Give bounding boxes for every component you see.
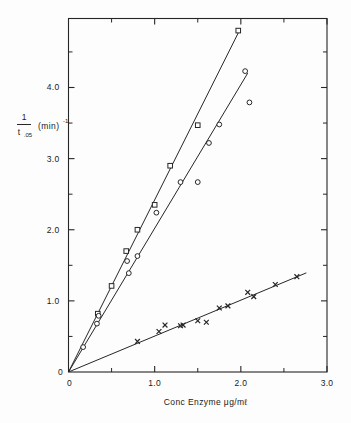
- series-circles-point: [247, 100, 252, 105]
- series-squares-point: [168, 163, 173, 168]
- series-circles-point: [135, 254, 140, 259]
- series-circles: [69, 69, 252, 372]
- plot-frame: [69, 19, 328, 373]
- series-squares-point: [195, 123, 200, 128]
- series-circles-point: [195, 180, 200, 185]
- series-circles-point: [178, 180, 183, 185]
- x-axis-title: Conc Enzyme μg/mℓ: [164, 397, 248, 407]
- series-crosses-point: [204, 320, 209, 325]
- series-squares-point: [109, 284, 114, 289]
- enzyme-kinetics-plot: 1.02.03.0001.02.03.04.0Conc Enzyme μg/mℓ…: [0, 0, 351, 423]
- series-circles-point: [81, 345, 86, 350]
- series-crosses-point: [245, 290, 250, 295]
- series-circles-point: [95, 321, 100, 326]
- y-axis-numerator: 1: [22, 112, 27, 122]
- y-tick-label: 2.0: [47, 225, 60, 235]
- series-circles-fit-line: [69, 73, 248, 372]
- series-circles-point: [126, 271, 131, 276]
- y-axis-units: (min): [38, 121, 59, 131]
- series-circles-point: [96, 313, 101, 318]
- axis-ticks: [69, 19, 328, 373]
- y-tick-label: 3.0: [47, 154, 60, 164]
- series-circles-point: [154, 210, 159, 215]
- series-squares-fit-line: [69, 31, 240, 372]
- series-squares-point: [236, 28, 241, 33]
- series-crosses-fit-line: [69, 273, 307, 372]
- series-crosses-point: [163, 323, 168, 328]
- x-tick-label: 3.0: [321, 378, 334, 388]
- y-axis-denominator: t: [18, 127, 21, 137]
- series-crosses-point: [294, 274, 299, 279]
- x-tick-label-origin: 0: [67, 378, 72, 388]
- series-circles-point: [217, 122, 222, 127]
- series-squares-point: [152, 203, 157, 208]
- series-circles-point: [125, 259, 130, 264]
- chart-page: 1.02.03.0001.02.03.04.0Conc Enzyme μg/mℓ…: [0, 0, 351, 423]
- axis-titles: Conc Enzyme μg/mℓ: [164, 397, 248, 407]
- series-squares-point: [135, 227, 140, 232]
- series-crosses: [69, 273, 307, 372]
- series-squares: [69, 28, 241, 372]
- series-circles-point: [207, 141, 212, 146]
- x-tick-label: 2.0: [234, 378, 247, 388]
- y-tick-label: 1.0: [47, 296, 60, 306]
- y-axis-title: 1t.05(min)-1: [17, 112, 69, 138]
- y-axis-units-exponent: -1: [63, 118, 69, 124]
- series-circles-point: [243, 69, 248, 74]
- x-tick-label: 1.0: [148, 378, 161, 388]
- series-squares-point: [124, 249, 129, 254]
- y-tick-label: 4.0: [47, 82, 60, 92]
- y-tick-label-origin: 0: [58, 367, 63, 377]
- y-axis-denominator-subscript: .05: [24, 132, 33, 138]
- series-crosses-point: [195, 318, 200, 323]
- series-crosses-point: [157, 329, 162, 334]
